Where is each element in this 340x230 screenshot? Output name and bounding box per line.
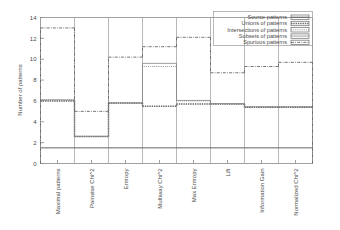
legend-label: Subsets of patterns [239, 33, 287, 39]
y-tick-label: 6 [33, 98, 37, 104]
dotted-line-key [291, 28, 309, 32]
x-tick-label: Lift [225, 168, 231, 176]
y-tick-label: 2 [33, 140, 37, 146]
y-axis-tick-labels: 02468101214 [30, 15, 37, 167]
x-tick-label: Max Entropy [191, 169, 197, 203]
chart-legend: Source patternsUnions of patternsInterse… [214, 12, 313, 46]
legend-items: Source patternsUnions of patternsInterse… [227, 14, 309, 45]
x-tick-label: Entropy [123, 169, 129, 190]
y-tick-label: 0 [33, 161, 37, 167]
y-axis-title: Number of patterns [17, 64, 23, 115]
y-tick-label: 8 [33, 77, 37, 83]
x-tick-label: Information Gain [259, 169, 265, 213]
legend-label: Unions of patterns [242, 20, 288, 26]
chart-container: 02468101214 Maximal patternsPairwise Chi… [0, 0, 340, 230]
y-tick-label: 14 [30, 15, 37, 21]
legend-label: Intersections of patterns [227, 27, 287, 33]
x-tick-label: Normalized Chi^2 [293, 168, 299, 216]
dashdot-line-key [291, 40, 309, 44]
patterns-step-chart: 02468101214 Maximal patternsPairwise Chi… [0, 0, 340, 230]
y-axis-ticks [41, 18, 45, 164]
thin-line-key [291, 34, 309, 38]
y-tick-label: 12 [30, 36, 37, 42]
y-tick-label: 10 [30, 56, 37, 62]
y-tick-label: 4 [33, 119, 37, 125]
x-tick-label: Maximal patterns [55, 169, 61, 215]
x-axis-tick-labels: Maximal patternsPairwise Chi^2EntropyMul… [55, 168, 299, 216]
dashed-line-key [291, 21, 309, 25]
x-tick-label: Pairwise Chi^2 [89, 168, 95, 208]
legend-label: Source patterns [248, 14, 288, 20]
solid-line-key [291, 15, 309, 19]
x-tick-label: Multiway Chi^2 [157, 168, 163, 209]
legend-label: Spurious patterns [243, 39, 287, 45]
